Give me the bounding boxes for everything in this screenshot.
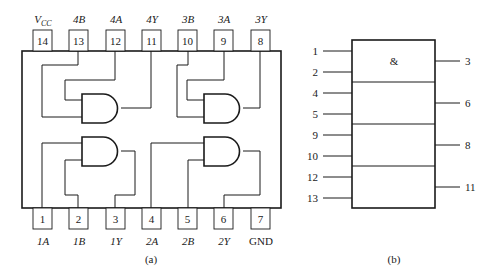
- and-gate-2: [204, 137, 240, 166]
- and-gate-3: [204, 94, 240, 123]
- and-gate-4: [82, 94, 118, 123]
- pin-number-2: 2: [69, 213, 88, 225]
- input-label-5: 5: [300, 108, 318, 120]
- output-label-6: 6: [465, 97, 471, 109]
- pin-label-vcc: VCC: [28, 13, 58, 27]
- pin-number-11: 11: [142, 35, 161, 47]
- pin-number-4: 4: [142, 213, 161, 225]
- input-label-10: 10: [300, 150, 318, 162]
- input-label-4: 4: [300, 87, 318, 99]
- output-label-11: 11: [465, 181, 476, 193]
- and-gate-1: [82, 137, 118, 166]
- input-label-2: 2: [300, 66, 318, 78]
- pin-label-1a: 1A: [28, 235, 58, 247]
- pin-label-gnd: GND: [243, 235, 279, 247]
- pin-label-2b: 2B: [173, 235, 203, 247]
- pin-number-6: 6: [214, 213, 233, 225]
- output-label-8: 8: [465, 139, 471, 151]
- pin-number-3: 3: [106, 213, 125, 225]
- input-label-13: 13: [300, 192, 318, 204]
- pin-label-3y: 3Y: [246, 13, 276, 25]
- ic-package-a: [22, 30, 281, 229]
- pin-number-14: 14: [33, 35, 52, 47]
- input-label-1: 1: [300, 45, 318, 57]
- pin-label-2y: 2Y: [209, 235, 239, 247]
- pin-label-3a: 3A: [209, 13, 239, 25]
- pin-label-1b: 1B: [64, 235, 94, 247]
- pin-number-13: 13: [69, 35, 88, 47]
- pin-number-5: 5: [178, 213, 197, 225]
- and-symbol: &: [385, 55, 403, 67]
- pin-label-1y: 1Y: [101, 235, 131, 247]
- pin-label-4a: 4A: [101, 13, 131, 25]
- input-label-12: 12: [300, 171, 318, 183]
- pin-number-9: 9: [214, 35, 233, 47]
- caption-a: (a): [140, 253, 162, 265]
- pin-number-1: 1: [33, 213, 52, 225]
- pin-label-4y: 4Y: [137, 13, 167, 25]
- output-label-3: 3: [465, 55, 471, 67]
- input-label-9: 9: [300, 129, 318, 141]
- pin-label-4b: 4B: [64, 13, 94, 25]
- pin-number-12: 12: [106, 35, 125, 47]
- pin-number-10: 10: [178, 35, 197, 47]
- pin-number-7: 7: [251, 213, 270, 225]
- pin-label-2a: 2A: [137, 235, 167, 247]
- caption-b: (b): [383, 253, 405, 265]
- pin-label-3b: 3B: [173, 13, 203, 25]
- pin-number-8: 8: [251, 35, 270, 47]
